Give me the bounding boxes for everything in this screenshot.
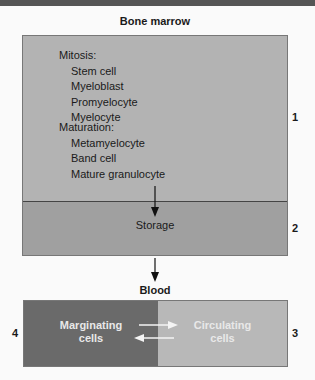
arrow-left-icon bbox=[134, 334, 174, 342]
arrows-layer bbox=[0, 0, 315, 380]
arrow-down-to-storage-icon bbox=[151, 186, 159, 217]
arrow-right-icon bbox=[139, 321, 178, 329]
arrow-down-to-blood-icon bbox=[151, 258, 159, 282]
